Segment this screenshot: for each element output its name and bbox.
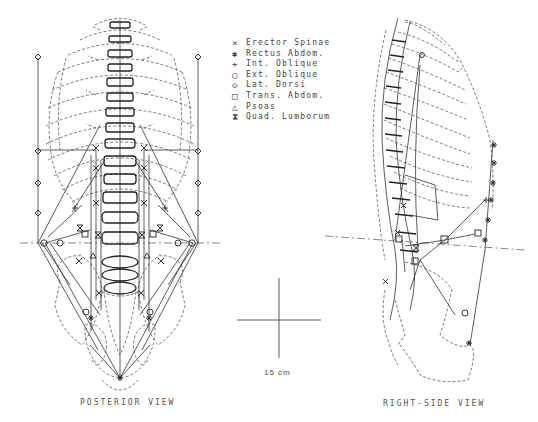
asterisk-marker-icon: ✱ — [232, 49, 246, 60]
legend-label: Erector Spinae — [246, 38, 330, 49]
diamond-marker-icon: ◇ — [232, 80, 246, 91]
posterior-view-caption: POSTERIOR VIEW — [80, 398, 175, 407]
side-spine — [373, 18, 438, 320]
legend-item-psoas: △ Psoas — [232, 102, 330, 113]
posterior-view — [20, 19, 220, 391]
legend-item-ext-oblique: ○ Ext. Oblique — [232, 70, 330, 81]
right-side-view-caption: RIGHT-SIDE VIEW — [383, 399, 485, 408]
legend-label: Quad. Lumborum — [246, 112, 330, 123]
legend-item-erector-spinae: × Erector Spinae — [232, 38, 330, 49]
triangle-marker-icon: △ — [232, 102, 246, 113]
x-marker-icon: × — [232, 38, 246, 49]
plus-marker-icon: + — [232, 59, 246, 70]
scale-bar — [237, 278, 321, 358]
side-ribcage — [384, 20, 493, 210]
circle-marker-icon: ○ — [232, 70, 246, 81]
legend-label: Int. Oblique — [246, 59, 318, 70]
legend-item-rectus-abdom: ✱ Rectus Abdom. — [232, 49, 330, 60]
legend-item-lat-dorsi: ◇ Lat. Dorsi — [232, 80, 330, 91]
legend-item-quad-lumborum: ⧗ Quad. Lumborum — [232, 112, 330, 123]
legend-label: Psoas — [246, 102, 276, 113]
muscle-legend: × Erector Spinae ✱ Rectus Abdom. + Int. … — [232, 38, 330, 123]
legend-item-int-oblique: + Int. Oblique — [232, 59, 330, 70]
legend-item-trans-abdom: □ Trans. Abdom. — [232, 91, 330, 102]
legend-label: Rectus Abdom. — [246, 49, 324, 60]
scale-label: 15 cm — [264, 368, 291, 377]
legend-label: Ext. Oblique — [246, 70, 318, 81]
hourglass-marker-icon: ⧗ — [232, 112, 246, 123]
legend-label: Trans. Abdom. — [246, 91, 324, 102]
right-side-view — [325, 18, 525, 382]
legend-label: Lat. Dorsi — [246, 80, 306, 91]
square-marker-icon: □ — [232, 91, 246, 102]
